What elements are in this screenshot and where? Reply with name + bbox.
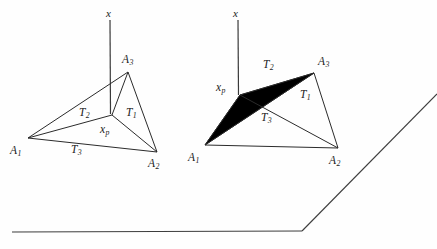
right-x-axis-line [238,20,239,95]
right-axis-label: x [233,8,238,19]
right-subtriangle-label-t2: T2 [263,59,274,71]
left-x-axis-line [110,20,111,114]
left-interior-point-label-xp: xp [100,124,109,136]
left-outer-triangle [28,72,157,152]
right-vertex-label-a2: A2 [329,155,340,167]
baseline-group [12,94,437,232]
baseline-diagonal-rule [302,94,437,231]
baseline-horizontal-rule [12,231,302,232]
left-subtriangle-label-t3: T3 [71,144,82,156]
left-axis-label: x [106,8,111,19]
right-subtriangle-label-t3: T3 [261,112,272,124]
left-vertex-label-a2: A2 [148,158,159,170]
figure-root: x A1 A2 A3 xp T1 T2 T3 x A1 A2 A3 xp T1 … [0,0,437,249]
right-subtriangle-label-t1: T1 [300,89,311,101]
left-diagram-group [28,20,157,152]
right-vertex-label-a1: A1 [188,152,199,164]
left-vertex-label-a3: A3 [122,54,133,66]
left-vertex-label-a1: A1 [10,145,21,157]
figure-vector-canvas [0,0,437,249]
right-interior-point-label-xp: xp [216,82,225,94]
left-subtriangle-label-t2: T2 [79,107,90,119]
left-subtriangle-label-t1: T1 [126,107,137,119]
right-vertex-label-a3: A3 [318,56,329,68]
